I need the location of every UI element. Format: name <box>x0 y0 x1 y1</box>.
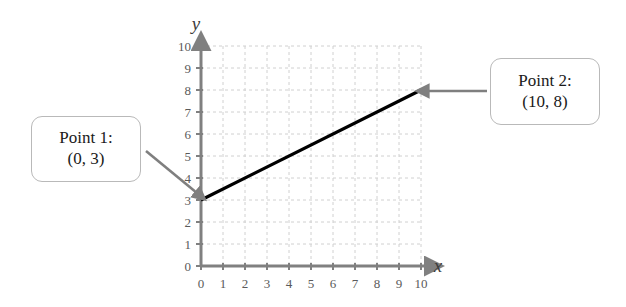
x-tick-label: 0 <box>198 276 205 291</box>
y-tick-label: 8 <box>185 83 192 98</box>
x-tick-label: 6 <box>330 276 337 291</box>
callout-point-2: Point 2: (10, 8) <box>490 58 600 125</box>
y-axis-label: y <box>190 13 201 34</box>
graph-figure: 10 9 8 7 6 5 4 3 2 1 0 0 1 2 3 4 5 6 7 8… <box>0 0 626 307</box>
x-tick-label: 4 <box>286 276 293 291</box>
x-tick-label: 1 <box>220 276 227 291</box>
x-tick-label: 5 <box>308 276 315 291</box>
y-tick-label: 10 <box>178 39 191 54</box>
callout-point-2-title: Point 2: <box>518 71 571 92</box>
y-tick-label: 1 <box>185 237 192 252</box>
x-tick-label: 7 <box>352 276 359 291</box>
callout-point-1-title: Point 1: <box>59 128 112 149</box>
y-tick-label: 5 <box>185 149 192 164</box>
x-tick-label: 10 <box>415 276 428 291</box>
y-tick-label: 3 <box>185 193 192 208</box>
callout-point-1-coordinates: (0, 3) <box>68 149 105 170</box>
y-tick-label: 0 <box>185 259 192 274</box>
callout-point-2-coordinates: (10, 8) <box>522 92 567 113</box>
x-axis-tick-labels: 0 1 2 3 4 5 6 7 8 9 10 <box>198 276 428 291</box>
y-tick-label: 2 <box>185 215 192 230</box>
y-tick-label: 7 <box>185 105 192 120</box>
x-tick-label: 8 <box>374 276 381 291</box>
x-tick-label: 2 <box>242 276 249 291</box>
y-tick-label: 6 <box>185 127 192 142</box>
callout-point-1: Point 1: (0, 3) <box>31 116 141 182</box>
y-axis-tick-labels: 10 9 8 7 6 5 4 3 2 1 0 <box>178 39 192 274</box>
x-tick-label: 3 <box>264 276 271 291</box>
x-axis-label: x <box>433 255 443 276</box>
x-tick-label: 9 <box>396 276 403 291</box>
y-tick-label: 9 <box>185 61 192 76</box>
